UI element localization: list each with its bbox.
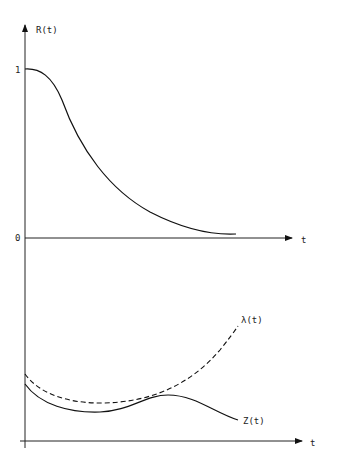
z-label: Z(t) [243,416,265,426]
bottom-t-label: t [310,438,315,448]
lambda-label: λ(t) [241,315,263,325]
r-axis-label: R(t) [36,25,58,35]
reliability-diagram: R(t) 1 0 t t λ(t) Z(t) [0,0,339,461]
z-curve [25,384,238,420]
top-t-label: t [301,235,306,245]
r-curve [25,69,236,234]
tick-zero: 0 [15,233,20,243]
tick-one: 1 [15,65,20,75]
lambda-curve [25,326,238,403]
